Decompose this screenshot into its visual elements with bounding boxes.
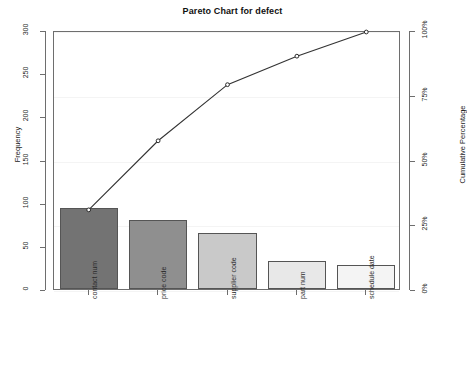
cumulative-point: [364, 30, 368, 34]
y-axis-left-tick: [40, 161, 45, 162]
cumulative-line-series: [54, 32, 399, 289]
y-axis-right-tick: [410, 96, 415, 97]
y-axis-left-tick-label: 150: [22, 148, 29, 170]
x-axis-tick: [365, 290, 366, 295]
y-axis-left-tick-label: 200: [22, 105, 29, 127]
y-axis-left-tick-label: 50: [22, 234, 29, 256]
x-axis-tick: [88, 290, 89, 295]
cumulative-point: [156, 139, 160, 143]
x-axis-label: part num: [299, 271, 306, 299]
x-axis-label: price code: [160, 267, 167, 299]
y-axis-left-tick: [40, 117, 45, 118]
x-axis-tick: [227, 290, 228, 295]
y-axis-left-tick-label: 300: [22, 19, 29, 41]
y-axis-left-title: Frequency: [13, 110, 22, 180]
y-axis-left-tick-label: 0: [22, 278, 29, 300]
x-axis-tick: [157, 290, 158, 295]
y-axis-left-tick-label: 100: [22, 191, 29, 213]
y-axis-right-tick: [410, 225, 415, 226]
x-axis-tick: [296, 290, 297, 295]
y-axis-right-tick-label: 50%: [421, 144, 428, 174]
y-axis-right-tick: [410, 161, 415, 162]
y-axis-left-tick: [40, 74, 45, 75]
x-axis-label: contact num: [91, 261, 98, 299]
y-axis-right-tick: [410, 31, 415, 32]
x-axis-label: supplier code: [230, 257, 237, 299]
cumulative-line-svg: [54, 32, 401, 291]
y-axis-right-tick-label: 75%: [421, 79, 428, 109]
y-axis-left-line: [45, 31, 46, 290]
y-axis-right-tick-label: 100%: [421, 15, 428, 45]
cumulative-point: [226, 83, 230, 87]
y-axis-right-tick: [410, 290, 415, 291]
cumulative-point: [87, 208, 91, 212]
y-axis-left-tick-label: 250: [22, 62, 29, 84]
y-axis-left-tick: [40, 247, 45, 248]
y-axis-right-tick-label: 0%: [421, 274, 428, 304]
cumulative-line: [89, 32, 367, 210]
y-axis-right-title: Cumulative Percentage: [458, 95, 467, 195]
y-axis-left-tick: [40, 204, 45, 205]
y-axis-left-tick: [40, 31, 45, 32]
y-axis-right-tick-label: 25%: [421, 209, 428, 239]
chart-title: Pareto Chart for defect: [0, 6, 465, 16]
x-axis-label: schedule date: [368, 255, 375, 299]
y-axis-left-tick: [40, 290, 45, 291]
cumulative-point: [295, 54, 299, 58]
plot-area: [53, 31, 400, 290]
